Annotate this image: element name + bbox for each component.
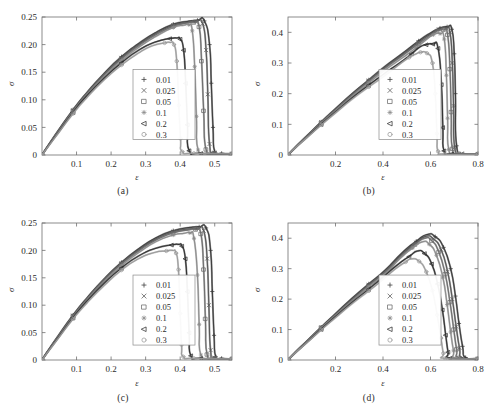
panel-c-caption: (c) <box>0 393 246 403</box>
x-tick-label: 0.1 <box>71 364 82 374</box>
marker-plus <box>210 82 213 85</box>
y-tick-label: 0.05 <box>21 328 37 338</box>
marker-plus <box>211 290 214 293</box>
marker-star <box>199 353 202 356</box>
x-tick-label: 0.2 <box>330 159 341 169</box>
marker-star <box>445 303 448 306</box>
y-tick-label: 0.25 <box>21 12 37 22</box>
y-axis-title: σ <box>252 81 262 86</box>
marker-star <box>142 110 146 114</box>
legend-label: 0.2 <box>156 324 167 334</box>
marker-star <box>142 316 146 320</box>
plot-a: 0.10.20.30.40.500.050.100.150.200.25εσ0.… <box>0 0 246 208</box>
y-tick-label: 0.15 <box>21 67 37 77</box>
figure-grid: 0.10.20.30.40.500.050.100.150.200.25εσ0.… <box>0 0 492 417</box>
marker-plus <box>208 43 211 46</box>
x-tick-label: 0.6 <box>425 159 437 169</box>
legend-label: 0.01 <box>156 280 171 290</box>
legend-label: 0.01 <box>402 280 417 290</box>
marker-star <box>172 26 175 29</box>
legend-label: 0.05 <box>402 302 417 312</box>
legend-label: 0.2 <box>402 324 413 334</box>
marker-star <box>447 148 450 151</box>
marker-star <box>441 275 444 278</box>
marker-star <box>192 237 195 240</box>
y-tick-label: 0.1 <box>272 325 283 335</box>
marker-star <box>428 243 431 246</box>
y-tick-label: 0.2 <box>272 294 283 304</box>
y-axis-title: σ <box>252 287 262 292</box>
panel-d: 0.20.40.60.800.10.20.30.4εσ0.010.0250.05… <box>246 208 492 417</box>
x-tick-label: 0.2 <box>330 364 341 374</box>
legend-label: 0.01 <box>156 75 171 85</box>
y-tick-label: 0.3 <box>272 58 284 68</box>
marker-star <box>193 65 196 68</box>
y-tick-label: 0.20 <box>21 40 37 50</box>
legend-label: 0.3 <box>402 130 413 140</box>
legend-label: 0.3 <box>156 335 167 345</box>
legend-label: 0.025 <box>156 86 175 96</box>
marker-star <box>446 117 449 120</box>
y-tick-label: 0.20 <box>21 246 37 256</box>
panel-a: 0.10.20.30.40.500.050.100.150.200.25εσ0.… <box>0 0 246 208</box>
legend: 0.010.0250.050.10.20.3 <box>133 275 195 345</box>
plot-b: 0.20.40.60.800.10.20.30.4εσ0.010.0250.05… <box>246 0 492 208</box>
y-tick-label: 0.05 <box>21 123 37 133</box>
y-tick-label: 0.3 <box>272 264 284 274</box>
marker-plus <box>454 92 457 95</box>
marker-star <box>449 330 452 333</box>
x-tick-label: 0.8 <box>472 364 484 374</box>
panel-d-caption: (d) <box>246 393 492 403</box>
marker-star <box>187 23 190 26</box>
x-tick-label: 0.2 <box>105 159 116 169</box>
x-tick-label: 0.2 <box>105 364 116 374</box>
y-tick-label: 0.10 <box>21 95 37 105</box>
legend: 0.010.0250.050.10.20.3 <box>379 69 441 139</box>
x-tick-label: 0.8 <box>472 159 484 169</box>
legend-label: 0.3 <box>402 335 413 345</box>
x-tick-label: 0.4 <box>175 364 187 374</box>
x-axis-title: ε <box>135 378 139 388</box>
y-tick-label: 0.10 <box>21 300 37 310</box>
x-axis-title: ε <box>381 172 385 182</box>
marker-star <box>452 349 455 352</box>
marker-star <box>411 246 414 249</box>
legend-label: 0.1 <box>156 108 167 118</box>
y-axis-title: σ <box>6 81 16 86</box>
legend: 0.010.0250.050.10.20.3 <box>379 275 441 345</box>
plot-c: 0.10.20.30.40.500.050.100.150.200.25εσ0.… <box>0 208 246 417</box>
marker-star <box>432 33 435 36</box>
x-tick-label: 0.5 <box>209 159 221 169</box>
marker-star <box>388 316 392 320</box>
marker-star <box>438 32 441 35</box>
y-tick-label: 0.1 <box>272 120 283 130</box>
legend-label: 0.3 <box>156 130 167 140</box>
marker-star <box>196 148 199 151</box>
marker-star <box>191 29 194 32</box>
y-tick-label: 0.15 <box>21 273 37 283</box>
y-tick-label: 0 <box>279 355 284 365</box>
x-tick-label: 0.3 <box>140 159 152 169</box>
x-tick-label: 0.4 <box>175 159 187 169</box>
marker-plus <box>211 126 214 129</box>
x-tick-label: 0.3 <box>140 364 152 374</box>
panel-a-caption: (a) <box>0 186 246 196</box>
x-tick-label: 0.4 <box>377 159 389 169</box>
x-tick-label: 0.5 <box>209 364 221 374</box>
marker-plus <box>453 52 456 55</box>
panel-b: 0.20.40.60.800.10.20.30.4εσ0.010.0250.05… <box>246 0 492 208</box>
marker-star <box>197 323 200 326</box>
marker-star <box>388 110 392 114</box>
x-axis-title: ε <box>135 172 139 182</box>
legend-label: 0.025 <box>402 291 421 301</box>
legend: 0.010.0250.050.10.20.3 <box>133 69 195 139</box>
legend-label: 0.05 <box>156 302 171 312</box>
x-tick-label: 0.1 <box>71 159 82 169</box>
plot-d: 0.20.40.60.800.10.20.30.4εσ0.010.0250.05… <box>246 208 492 417</box>
legend-label: 0.025 <box>156 291 175 301</box>
marker-star <box>435 254 438 257</box>
legend-label: 0.1 <box>402 108 413 118</box>
legend-label: 0.025 <box>402 86 421 96</box>
marker-star <box>443 37 446 40</box>
y-tick-label: 0 <box>33 150 38 160</box>
